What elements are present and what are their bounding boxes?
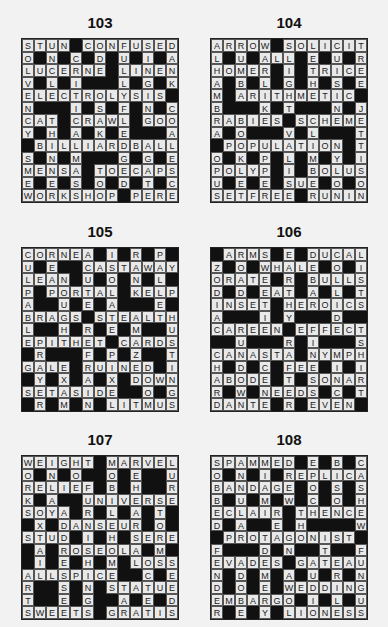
- black-square: [94, 506, 106, 519]
- letter-cell: E: [22, 336, 34, 349]
- letter-cell: N: [46, 152, 58, 165]
- letter-cell: I: [331, 469, 343, 482]
- letter-cell: A: [94, 286, 106, 299]
- letter-cell: E: [106, 386, 118, 399]
- letter-cell: L: [46, 481, 58, 494]
- letter-cell: I: [355, 361, 367, 374]
- letter-cell: R: [58, 544, 70, 557]
- letter-cell: R: [130, 248, 142, 261]
- black-square: [118, 506, 130, 519]
- black-square: [343, 594, 355, 607]
- letter-cell: R: [259, 594, 271, 607]
- letter-cell: T: [283, 286, 295, 299]
- letter-cell: O: [235, 139, 247, 152]
- letter-cell: U: [82, 273, 94, 286]
- black-square: [271, 177, 283, 190]
- black-square: [166, 298, 178, 311]
- letter-cell: E: [58, 64, 70, 77]
- letter-cell: S: [22, 386, 34, 399]
- letter-cell: S: [22, 506, 34, 519]
- black-square: [118, 348, 130, 361]
- letter-cell: T: [130, 398, 142, 411]
- black-square: [58, 114, 70, 127]
- letter-cell: R: [22, 481, 34, 494]
- letter-cell: E: [130, 469, 142, 482]
- black-square: [271, 494, 283, 507]
- letter-cell: C: [70, 114, 82, 127]
- letter-cell: I: [319, 531, 331, 544]
- black-square: [343, 102, 355, 115]
- letter-cell: A: [58, 386, 70, 399]
- letter-cell: E: [46, 261, 58, 274]
- letter-cell: T: [22, 594, 34, 607]
- letter-cell: I: [82, 531, 94, 544]
- letter-cell: C: [307, 494, 319, 507]
- black-square: [94, 298, 106, 311]
- letter-cell: D: [211, 581, 223, 594]
- letter-cell: E: [58, 361, 70, 374]
- black-square: [154, 348, 166, 361]
- black-square: [355, 311, 367, 324]
- letter-cell: G: [22, 361, 34, 374]
- letter-cell: A: [46, 494, 58, 507]
- letter-cell: R: [106, 139, 118, 152]
- letter-cell: E: [283, 189, 295, 202]
- letter-cell: E: [331, 556, 343, 569]
- black-square: [271, 152, 283, 165]
- letter-cell: A: [70, 519, 82, 532]
- letter-cell: I: [166, 361, 178, 374]
- letter-cell: B: [22, 311, 34, 324]
- letter-cell: I: [82, 569, 94, 582]
- black-square: [58, 152, 70, 165]
- letter-cell: L: [166, 456, 178, 469]
- crossword-grid: ARMSEDUCALZOWHALEOIORATERBULLSDDEATALTIN…: [210, 247, 368, 412]
- black-square: [319, 77, 331, 90]
- letter-cell: T: [271, 89, 283, 102]
- letter-cell: E: [271, 456, 283, 469]
- letter-cell: A: [34, 361, 46, 374]
- puzzle-number: 108: [210, 431, 368, 449]
- black-square: [295, 569, 307, 582]
- letter-cell: T: [355, 127, 367, 140]
- letter-cell: M: [247, 248, 259, 261]
- letter-cell: E: [106, 323, 118, 336]
- letter-cell: P: [211, 164, 223, 177]
- letter-cell: T: [319, 544, 331, 557]
- black-square: [154, 152, 166, 165]
- letter-cell: O: [307, 606, 319, 619]
- letter-cell: O: [94, 39, 106, 52]
- black-square: [106, 52, 118, 65]
- letter-cell: L: [118, 77, 130, 90]
- letter-cell: E: [130, 361, 142, 374]
- black-square: [343, 52, 355, 65]
- letter-cell: T: [82, 456, 94, 469]
- letter-cell: S: [271, 556, 283, 569]
- black-square: [223, 286, 235, 299]
- letter-cell: N: [355, 189, 367, 202]
- black-square: [271, 39, 283, 52]
- letter-cell: D: [94, 386, 106, 399]
- letter-cell: O: [34, 248, 46, 261]
- letter-cell: R: [46, 248, 58, 261]
- black-square: [46, 398, 58, 411]
- letter-cell: L: [106, 286, 118, 299]
- letter-cell: I: [307, 336, 319, 349]
- letter-cell: R: [166, 481, 178, 494]
- letter-cell: L: [106, 89, 118, 102]
- black-square: [247, 127, 259, 140]
- letter-cell: M: [223, 594, 235, 607]
- black-square: [343, 519, 355, 532]
- black-square: [343, 494, 355, 507]
- letter-cell: E: [307, 177, 319, 190]
- black-square: [34, 594, 46, 607]
- black-square: [130, 569, 142, 582]
- letter-cell: G: [82, 594, 94, 607]
- letter-cell: B: [106, 481, 118, 494]
- letter-cell: A: [235, 456, 247, 469]
- black-square: [46, 298, 58, 311]
- letter-cell: N: [271, 323, 283, 336]
- letter-cell: K: [58, 189, 70, 202]
- black-square: [130, 298, 142, 311]
- black-square: [211, 248, 223, 261]
- letter-cell: E: [82, 336, 94, 349]
